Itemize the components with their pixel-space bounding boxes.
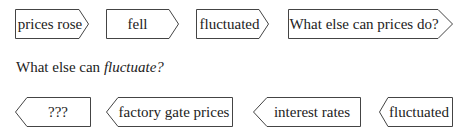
arrow-shape-interest-rates: interest rates bbox=[253, 97, 361, 127]
arrow-shape-what-else-can-prices-do: What else can prices do? bbox=[288, 9, 453, 39]
arrow-shape-unknown: ??? bbox=[15, 97, 91, 127]
arrow-shape-fluctuated-left: fluctuated bbox=[379, 97, 453, 127]
arrow-shape-factory-gate-prices: factory gate prices bbox=[106, 97, 233, 127]
shape-label: fluctuated bbox=[386, 97, 452, 127]
shape-label: ??? bbox=[27, 97, 89, 127]
prompt-text: What else can fluctuate? bbox=[16, 59, 164, 76]
prompt-prefix: What else can bbox=[16, 59, 104, 75]
shape-label: fell bbox=[106, 9, 169, 39]
arrow-shape-fluctuated: fluctuated bbox=[196, 9, 269, 39]
shape-label: interest rates bbox=[265, 97, 359, 127]
prompt-emphasis: fluctuate? bbox=[104, 59, 164, 75]
shape-label: fluctuated bbox=[198, 9, 261, 39]
arrow-shape-fell: fell bbox=[106, 9, 179, 39]
shape-label: prices rose bbox=[18, 9, 82, 39]
arrow-shape-prices-rose: prices rose bbox=[15, 9, 89, 39]
shape-label: What else can prices do? bbox=[290, 9, 438, 39]
shape-label: factory gate prices bbox=[116, 97, 232, 127]
